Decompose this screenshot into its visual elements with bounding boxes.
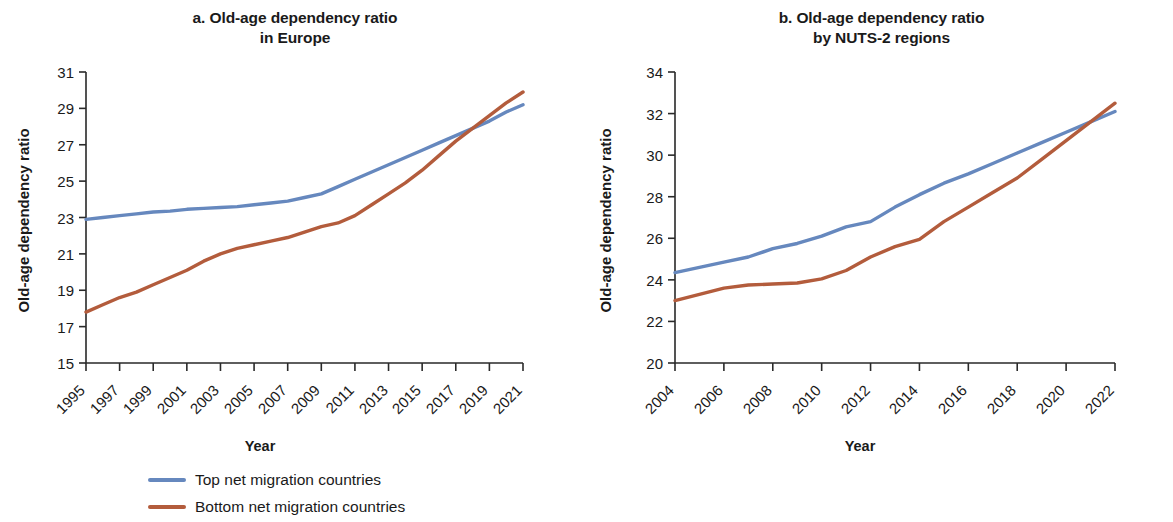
legend-label-bottom: Bottom net migration countries [195,499,405,515]
legend-swatch-red [148,505,186,509]
panel-a: a. Old-age dependency ratio in Europe Ol… [0,0,590,522]
panel-a-x-axis-label: Year [0,438,520,454]
figure-old-age-dependency-ratio: a. Old-age dependency ratio in Europe Ol… [0,0,1173,522]
panel-a-legend: Top net migration countries Bottom net m… [148,466,405,520]
legend-item-top-net-migration-countries: Top net migration countries [148,466,405,493]
y-axis-tick-label: 26 [623,230,663,247]
panel-b-x-axis-label: Year [590,438,1130,454]
y-axis-tick-label: 20 [623,355,663,372]
legend-label-top: Top net migration countries [195,472,381,488]
panel-b: b. Old-age dependency ratio by NUTS-2 re… [590,0,1173,522]
y-axis-tick-label: 24 [623,271,663,288]
y-axis-tick-label: 21 [34,245,74,262]
legend-swatch-blue [148,478,186,482]
legend-item-bottom-net-migration-countries: Bottom net migration countries [148,493,405,520]
y-axis-tick-label: 17 [34,318,74,335]
y-axis-tick-label: 23 [34,209,74,226]
y-axis-tick-label: 25 [34,173,74,190]
y-axis-tick-label: 22 [623,313,663,330]
y-axis-tick-label: 27 [34,136,74,153]
y-axis-tick-label: 15 [34,355,74,372]
y-axis-tick-label: 29 [34,100,74,117]
y-axis-tick-label: 32 [623,105,663,122]
y-axis-tick-label: 19 [34,282,74,299]
y-axis-tick-label: 34 [623,64,663,81]
y-axis-tick-label: 30 [623,147,663,164]
y-axis-tick-label: 28 [623,188,663,205]
y-axis-tick-label: 31 [34,64,74,81]
